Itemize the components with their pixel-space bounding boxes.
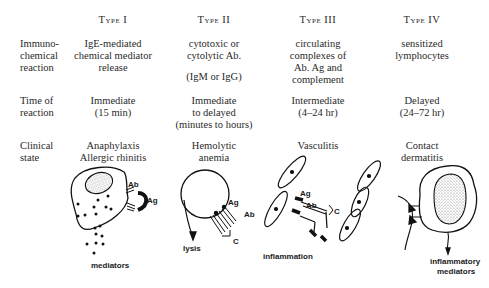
type4-caption-line2: mediators	[437, 267, 476, 276]
mediator-granules	[77, 195, 113, 255]
type1-caption: mediators	[91, 261, 130, 270]
lymphocyte-icon	[398, 166, 477, 254]
type2-ab-label: Ab	[244, 210, 255, 219]
immune-complex-vessel-icon	[261, 153, 384, 244]
type4-caption-line1: inflammatory	[430, 257, 481, 266]
type2-caption: lysis	[183, 244, 201, 253]
type1-ab-label: Ab	[128, 180, 139, 189]
type1-ag-label: Ag	[147, 196, 158, 205]
type3-c-label: C	[334, 207, 340, 216]
illustrations: Ab Ag mediators Ag Ab C lysis	[0, 0, 489, 288]
type2-ag-label: Ag	[228, 198, 239, 207]
mast-cell-icon	[71, 167, 146, 229]
type3-caption: inflammation	[263, 252, 313, 261]
type3-ag-label: Ag	[300, 189, 311, 198]
type3-ab-label: Ab	[306, 201, 317, 210]
type2-c-label: C	[233, 237, 239, 246]
